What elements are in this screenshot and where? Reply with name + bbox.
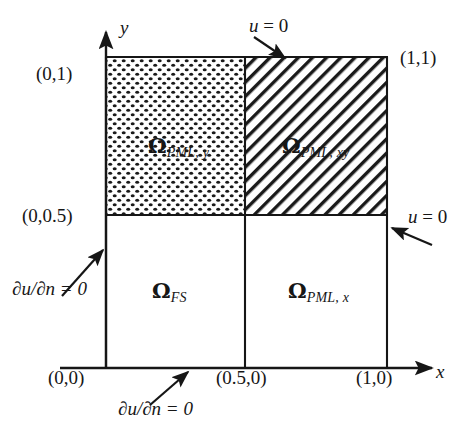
boundary-label-neumann-bottom: ∂u/∂n = 0: [118, 399, 193, 418]
coordinate-label-origin: (0,0): [48, 368, 84, 387]
region-label-fs: ΩFS: [152, 280, 187, 301]
bc-symbol: u: [249, 15, 259, 36]
region-subscript: PML, x: [307, 290, 349, 305]
bc-value: = 0: [60, 278, 87, 299]
bc-symbol: ∂u/∂n: [118, 398, 161, 419]
omega-symbol: Ω: [288, 278, 307, 303]
boundary-label-neumann-left: ∂u/∂n = 0: [12, 279, 87, 298]
bc-value: = 0: [422, 206, 447, 227]
omega-symbol: Ω: [148, 133, 167, 158]
coordinate-label-bottom-right: (1,0): [356, 368, 392, 387]
bc-symbol: u: [408, 206, 418, 227]
leader-arrow-dirichlet-right: [392, 228, 432, 245]
region-subscript: PML, xy: [301, 145, 350, 160]
bc-symbol: ∂u/∂n: [12, 278, 55, 299]
coordinate-label-top-right: (1,1): [400, 48, 436, 67]
coordinate-label-bottom-mid: (0.5,0): [216, 368, 267, 387]
boundary-label-dirichlet-right: u = 0: [408, 207, 447, 226]
coordinate-label-mid-left: (0,0.5): [22, 206, 73, 225]
x-axis-label: x: [436, 362, 444, 381]
region-subscript: PML, y: [167, 145, 209, 160]
bc-value: = 0: [166, 398, 193, 419]
region-label-pml-xy: ΩPML, xy: [282, 135, 350, 156]
region-label-pml-y: ΩPML, y: [148, 135, 209, 156]
y-axis-label: y: [120, 18, 128, 37]
omega-symbol: Ω: [152, 278, 171, 303]
leader-arrow-dirichlet-top: [254, 37, 285, 58]
omega-symbol: Ω: [282, 133, 301, 158]
boundary-label-dirichlet-top: u = 0: [249, 16, 288, 35]
coordinate-label-top-left: (0,1): [36, 64, 72, 83]
region-subscript: FS: [171, 290, 187, 305]
bc-value: = 0: [263, 15, 288, 36]
region-label-pml-x: ΩPML, x: [288, 280, 349, 301]
pml-domain-diagram: (0,1) (0,0.5) (0,0) (0.5,0) (1,0) (1,1) …: [0, 0, 468, 441]
